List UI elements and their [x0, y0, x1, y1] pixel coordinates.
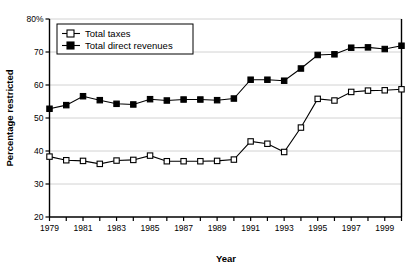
- data-point-marker: [399, 87, 404, 92]
- x-axis-tick-label: 1979: [40, 223, 59, 233]
- data-point-marker: [198, 97, 203, 102]
- data-point-marker: [97, 97, 102, 102]
- y-axis-tick-label: 80%: [26, 14, 43, 24]
- x-axis-tick-label: 1987: [174, 223, 193, 233]
- chart-figure: 20304050607080% 197919811983198519871989…: [0, 0, 414, 275]
- data-point-marker: [114, 158, 119, 163]
- data-point-marker: [231, 157, 236, 162]
- data-point-marker: [365, 88, 370, 93]
- data-point-marker: [248, 139, 253, 144]
- data-point-marker: [147, 96, 152, 101]
- data-point-marker: [114, 101, 119, 106]
- data-point-marker: [147, 153, 152, 158]
- y-axis-title: Percentage restricted: [4, 69, 15, 166]
- data-point-marker: [248, 77, 253, 82]
- chart-legend: Total taxes Total direct revenues: [57, 24, 193, 54]
- data-point-marker: [399, 43, 404, 48]
- data-point-marker: [214, 158, 219, 163]
- data-point-marker: [298, 125, 303, 130]
- y-axis-tick-label: 40: [34, 146, 44, 156]
- x-axis-tick-label: 1983: [107, 223, 126, 233]
- data-point-marker: [349, 45, 354, 50]
- data-point-marker: [47, 106, 52, 111]
- data-point-marker: [198, 159, 203, 164]
- data-point-marker: [382, 88, 387, 93]
- data-point-marker: [164, 98, 169, 103]
- line-chart: 20304050607080% 197919811983198519871989…: [0, 0, 414, 275]
- data-point-marker: [131, 102, 136, 107]
- y-axis-tick-label: 60: [34, 80, 44, 90]
- filled-square-marker-icon: [67, 42, 74, 49]
- x-axis-tick-label: 1985: [141, 223, 160, 233]
- x-axis-tick-label: 1993: [275, 223, 294, 233]
- x-axis-tick-label: 1997: [342, 223, 361, 233]
- data-point-marker: [231, 96, 236, 101]
- data-point-marker: [298, 66, 303, 71]
- legend-item-total-taxes: Total taxes: [62, 28, 131, 39]
- data-point-marker: [349, 89, 354, 94]
- x-axis-title: Year: [216, 253, 236, 264]
- data-point-marker: [315, 52, 320, 57]
- y-axis-tick-label: 20: [34, 212, 44, 222]
- x-axis-tick-label: 1999: [375, 223, 394, 233]
- x-axis-tick-label: 1989: [208, 223, 227, 233]
- data-point-marker: [332, 98, 337, 103]
- legend-label-total-taxes: Total taxes: [85, 28, 131, 39]
- data-point-marker: [265, 141, 270, 146]
- x-axis-tick-label: 1991: [241, 223, 260, 233]
- data-point-marker: [265, 77, 270, 82]
- data-point-marker: [315, 96, 320, 101]
- data-point-marker: [281, 78, 286, 83]
- legend-label-total-direct-revenues: Total direct revenues: [85, 40, 173, 51]
- data-point-marker: [80, 94, 85, 99]
- data-point-marker: [64, 158, 69, 163]
- data-point-marker: [214, 97, 219, 102]
- data-point-marker: [97, 161, 102, 166]
- open-square-marker-icon: [67, 30, 74, 37]
- x-axis-tick-label: 1981: [74, 223, 93, 233]
- y-axis-tick-label: 50: [34, 113, 44, 123]
- y-axis-tick-label: 30: [34, 179, 44, 189]
- data-point-marker: [181, 159, 186, 164]
- data-point-marker: [47, 154, 52, 159]
- data-point-marker: [382, 46, 387, 51]
- data-point-marker: [332, 52, 337, 57]
- data-point-marker: [131, 157, 136, 162]
- data-point-marker: [164, 159, 169, 164]
- data-point-marker: [64, 102, 69, 107]
- x-axis-tick-label: 1995: [308, 223, 327, 233]
- y-axis-tick-label: 70: [34, 47, 44, 57]
- data-point-marker: [281, 149, 286, 154]
- data-point-marker: [365, 45, 370, 50]
- data-point-marker: [80, 158, 85, 163]
- data-point-marker: [181, 97, 186, 102]
